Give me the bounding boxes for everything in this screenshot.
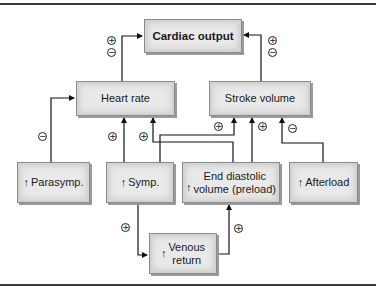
minus-sign-icon: − [107,48,116,57]
plus-sign-icon: + [268,36,277,45]
node-cardiac-output: Cardiac output [144,19,242,53]
node-label-line2: return [168,254,205,267]
up-arrow-icon: ↑ [186,181,192,194]
node-label-line2: volume (preload) [193,183,276,196]
plus-sign-icon: + [214,122,223,131]
node-label: End diastolic volume (preload) [193,170,276,196]
node-label: Symp. [128,176,159,189]
node-stroke-volume: Stroke volume [209,81,311,116]
up-arrow-icon: ↑ [298,176,304,189]
plus-sign-icon: + [108,132,117,141]
node-end-diastolic-volume: ↑ End diastolic volume (preload) [182,162,280,203]
node-heart-rate: Heart rate [76,81,175,116]
node-label: Parasymp. [31,176,84,189]
node-parasymp: ↑ Parasymp. [17,162,90,203]
plus-sign-icon: + [139,132,148,141]
node-label: Heart rate [101,92,150,105]
node-label-line1: Venous [168,241,205,254]
node-label: Afterload [305,176,349,189]
plus-sign-icon: + [234,224,243,233]
node-venous-return: ↑ Venous return [149,233,217,274]
node-label: Cardiac output [152,30,233,43]
node-label-line1: End diastolic [193,170,276,183]
plus-sign-icon: + [258,122,267,131]
minus-sign-icon: − [38,132,47,141]
up-arrow-icon: ↑ [161,247,167,260]
node-symp: ↑ Symp. [106,162,174,203]
minus-sign-icon: − [288,124,297,133]
up-arrow-icon: ↑ [121,176,127,189]
up-arrow-icon: ↑ [23,176,29,189]
minus-sign-icon: − [268,48,277,57]
node-label: Stroke volume [225,92,295,105]
plus-sign-icon: + [121,223,130,232]
node-label: Venous return [168,241,205,267]
plus-sign-icon: + [107,36,116,45]
node-afterload: ↑ Afterload [289,162,358,203]
